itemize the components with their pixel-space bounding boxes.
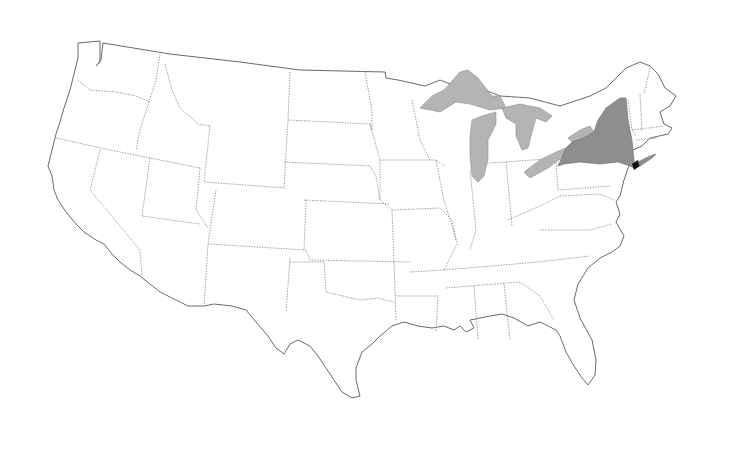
us-map (0, 0, 736, 463)
long-island (638, 154, 656, 166)
us-outline (48, 41, 676, 398)
nyc-marker (632, 154, 656, 170)
